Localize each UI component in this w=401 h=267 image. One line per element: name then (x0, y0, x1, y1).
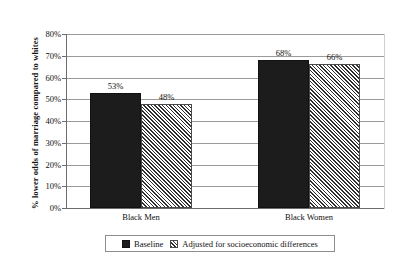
legend-swatch-solid-icon (122, 240, 130, 248)
bar-value-label: 48% (141, 92, 192, 102)
x-axis-category-label: Black Men (76, 212, 206, 222)
bar-value-label: 53% (90, 81, 141, 91)
bar-adjusted (141, 104, 192, 208)
x-axis-category-label: Black Women (244, 212, 374, 222)
y-axis-line (66, 34, 67, 209)
legend-swatch-hatch-icon (170, 240, 178, 248)
legend-label-baseline: Baseline (134, 239, 163, 249)
legend-item-baseline: Baseline (122, 239, 163, 249)
y-axis-tick-label: 10% (15, 181, 61, 191)
gridline (66, 34, 385, 35)
chart-legend: Baseline Adjusted for socioeconomic diff… (105, 235, 335, 252)
y-axis-tick-label: 30% (15, 138, 61, 148)
y-axis-tick-label: 50% (15, 94, 61, 104)
legend-label-adjusted: Adjusted for socioeconomic differences (182, 239, 318, 249)
plot-area: 53%48%68%66% (66, 34, 385, 208)
bar-value-label: 68% (258, 48, 309, 58)
y-axis-tick-label: 40% (15, 116, 61, 126)
bar-baseline (90, 93, 141, 208)
bar-adjusted (309, 64, 360, 208)
bar-value-label: 66% (309, 52, 360, 62)
legend-item-adjusted: Adjusted for socioeconomic differences (170, 239, 318, 249)
y-axis-tick-label: 20% (15, 160, 61, 170)
y-axis-tick-label: 0% (15, 203, 61, 213)
y-axis-tick-label: 80% (15, 29, 61, 39)
bar-baseline (258, 60, 309, 208)
y-axis-tick-label: 60% (15, 73, 61, 83)
plot-right-border (384, 34, 385, 209)
x-axis-line (66, 208, 385, 209)
y-axis-tick-label: 70% (15, 51, 61, 61)
bar-chart: % lower odds of marriage compared to whi… (0, 0, 401, 267)
